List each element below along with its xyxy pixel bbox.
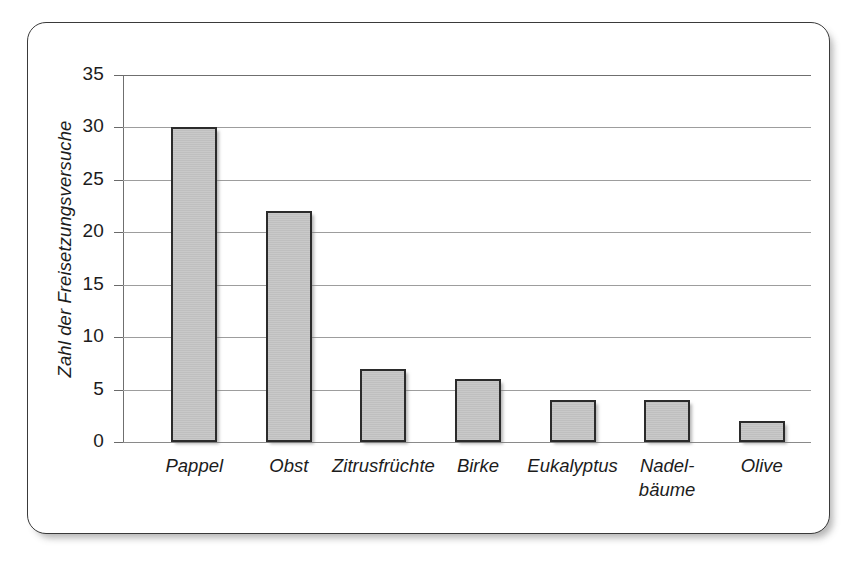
bar [455, 379, 501, 442]
y-axis-tick-10 [114, 337, 123, 338]
y-axis-tick-label: 35 [58, 63, 104, 85]
bar [644, 400, 690, 442]
bar [360, 369, 406, 442]
bar [171, 127, 217, 442]
bar-chart-plot-area: Zahl der Freisetzungsversuche 0510152025… [28, 23, 831, 535]
y-axis-tick-label: 25 [58, 168, 104, 190]
gridline-35 [123, 75, 811, 76]
gridline-15 [123, 285, 811, 286]
y-axis-tick-label: 30 [58, 115, 104, 137]
y-axis-tick-label: 15 [58, 273, 104, 295]
x-axis-category-label: Olive [692, 454, 832, 478]
y-axis-tick-label: 10 [58, 325, 104, 347]
y-axis-tick-label: 20 [58, 220, 104, 242]
y-axis-tick-label: 0 [58, 430, 104, 452]
chart-frame: Zahl der Freisetzungsversuche 0510152025… [27, 22, 830, 534]
bar [550, 400, 596, 442]
bar [739, 421, 785, 442]
y-axis-tick-label: 5 [58, 378, 104, 400]
y-axis-tick-20 [114, 232, 123, 233]
y-axis-tick-25 [114, 180, 123, 181]
y-axis-line [123, 75, 124, 442]
y-axis-tick-0 [114, 442, 123, 443]
y-axis-tick-35 [114, 75, 123, 76]
gridline-30 [123, 127, 811, 128]
gridline-0 [123, 442, 811, 443]
gridline-10 [123, 337, 811, 338]
gridline-20 [123, 232, 811, 233]
gridline-25 [123, 180, 811, 181]
y-axis-tick-30 [114, 127, 123, 128]
bar [266, 211, 312, 442]
y-axis-tick-15 [114, 285, 123, 286]
y-axis-tick-5 [114, 390, 123, 391]
